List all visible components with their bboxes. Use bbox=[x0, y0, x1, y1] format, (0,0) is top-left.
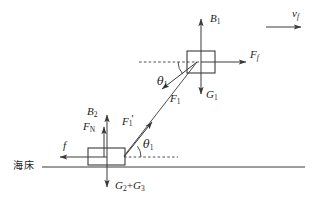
angle-arc-lower bbox=[138, 146, 142, 157]
label-seabed: 海床 bbox=[13, 161, 35, 171]
label-cable-tension-upper: F1 bbox=[170, 93, 180, 105]
label-friction-lower: f bbox=[63, 140, 66, 151]
label-flow-velocity: vf bbox=[292, 8, 299, 20]
angle-arc-upper bbox=[178, 62, 183, 74]
label-weight-lower: G2+G3 bbox=[115, 180, 145, 192]
label-weight-upper: G1 bbox=[206, 89, 218, 101]
label-drag-upper: Ff bbox=[250, 49, 259, 61]
label-buoyancy-upper: B1 bbox=[210, 13, 220, 25]
label-angle-lower: θ1 bbox=[143, 139, 153, 151]
label-buoyancy-lower: B2 bbox=[87, 106, 97, 118]
label-angle-upper: θ1 bbox=[157, 76, 167, 88]
label-cable-tension-lower: F1' bbox=[122, 113, 133, 128]
force-diagram bbox=[0, 0, 318, 205]
figure-canvas: vf B1 Ff G1 F1 θ1 B2 FN F1' f θ1 G2+G3 海… bbox=[0, 0, 318, 205]
label-normal-force: FN bbox=[83, 121, 95, 133]
